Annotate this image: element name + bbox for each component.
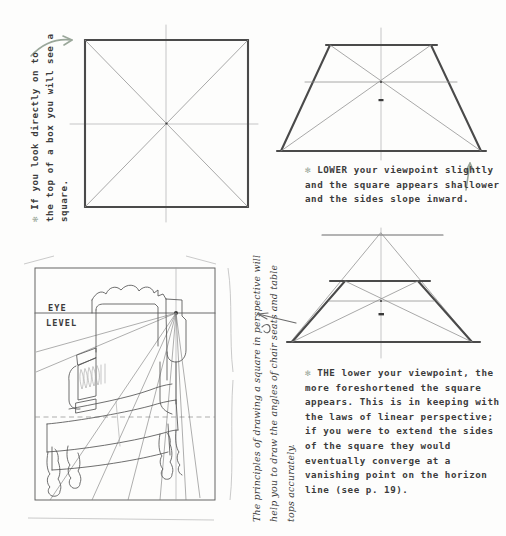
eye-level-label-level: LEVEL <box>46 318 77 328</box>
asterisk-bullet-icon: ✻ <box>305 367 311 378</box>
caption-lower-viewpoint: ✻ LOWER your viewpoint slightly and the … <box>305 163 505 207</box>
caption-chair-note: The principles of drawing a square in pe… <box>248 254 299 522</box>
caption-the-lower-viewpoint: ✻ THE lower your viewpoint, the more for… <box>305 366 505 497</box>
caption-the-lower-viewpoint-text: THE lower your viewpoint, the more fores… <box>305 367 506 495</box>
caption-lower-viewpoint-text: LOWER your viewpoint slightly and the sq… <box>305 164 506 204</box>
caption-square-text: If you look directly on to the top of a … <box>29 27 69 222</box>
asterisk-bullet-icon: ✻ <box>305 164 311 175</box>
caption-square: ✻ If you look directly on to the top of … <box>28 32 72 222</box>
perspective-lesson-page: ✻ If you look directly on to the top of … <box>0 0 506 536</box>
eye-level-label-eye: EYE <box>48 303 67 313</box>
asterisk-bullet-icon: ✻ <box>29 216 40 222</box>
